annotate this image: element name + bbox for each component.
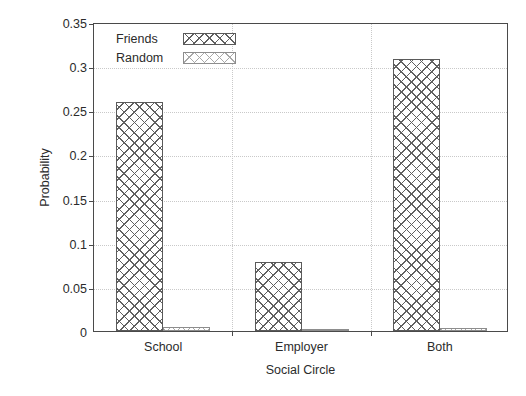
x-tick-mark: [371, 331, 372, 336]
y-tick-label: 0.35: [63, 17, 87, 31]
y-gridline: [94, 68, 507, 69]
y-tick-mark: [89, 289, 94, 290]
y-tick-label: 0.2: [70, 149, 87, 163]
y-tick-label: 0.05: [63, 282, 87, 296]
x-tick-label-school: School: [144, 340, 182, 354]
legend-item-random: Random: [116, 51, 236, 65]
sparse-crosshatch-swatch: [183, 52, 236, 64]
bar-friends-both: [393, 59, 440, 331]
y-tick-label: 0: [80, 326, 87, 340]
y-tick-mark: [89, 201, 94, 202]
y-tick-mark: [89, 68, 94, 69]
bar-friends-school: [116, 102, 163, 331]
y-tick-mark: [89, 156, 94, 157]
y-tick-mark: [89, 245, 94, 246]
bar-random-both: [440, 328, 487, 331]
y-tick-mark: [89, 24, 94, 25]
bar-random-employer: [302, 329, 349, 331]
x-gridline: [232, 24, 233, 331]
y-tick-mark: [89, 112, 94, 113]
x-tick-label-employer: Employer: [275, 340, 328, 354]
bar-friends-employer: [255, 262, 302, 331]
x-tick-label-both: Both: [427, 340, 453, 354]
y-tick-label: 0.25: [63, 105, 87, 119]
x-axis-title: Social Circle: [93, 363, 508, 377]
bar-random-school: [163, 327, 210, 331]
y-tick-label: 0.15: [63, 194, 87, 208]
dense-crosshatch-swatch: [183, 33, 236, 45]
y-axis-title: Probability: [38, 23, 52, 332]
legend-label-random: Random: [116, 51, 174, 65]
bar-chart-figure: Probability 00.050.10.150.20.250.30.35 S…: [0, 0, 526, 396]
plot-area: 00.050.10.150.20.250.30.35 SchoolEmploye…: [93, 23, 508, 332]
legend-item-friends: Friends: [116, 32, 236, 46]
x-tick-mark: [232, 331, 233, 336]
x-gridline: [371, 24, 372, 331]
legend-label-friends: Friends: [116, 32, 174, 46]
y-tick-label: 0.1: [70, 238, 87, 252]
chart-legend: Friends Random: [116, 32, 236, 65]
y-tick-label: 0.3: [70, 61, 87, 75]
